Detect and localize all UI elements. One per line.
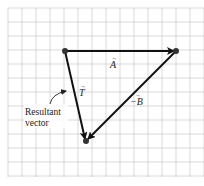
annotation-curve-arrow xyxy=(50,91,66,104)
annotation-resultant-vector: Resultant vector xyxy=(24,104,68,128)
svg-text:→: → xyxy=(135,92,141,98)
svg-text:Resultant: Resultant xyxy=(25,107,61,117)
label-a: A → xyxy=(109,55,117,70)
vector-diagram: A → −B → T → Resultant vector xyxy=(0,0,204,186)
bottom-point-dot xyxy=(83,138,89,144)
start-point-dot xyxy=(62,48,68,54)
svg-text:vector: vector xyxy=(25,118,50,128)
label-t: T → xyxy=(79,83,86,98)
svg-text:→: → xyxy=(80,83,86,89)
grid-background xyxy=(8,8,204,177)
svg-text:→: → xyxy=(111,55,117,61)
right-point-dot xyxy=(173,48,179,54)
